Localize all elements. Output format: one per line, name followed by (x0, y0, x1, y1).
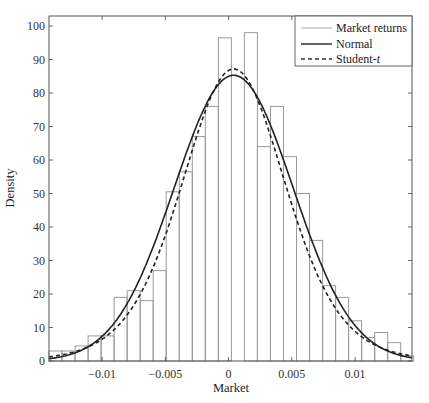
x-tick-label: 0.01 (345, 367, 366, 381)
histogram-bar (218, 38, 231, 361)
histogram-bar (179, 172, 192, 361)
histogram-chart: 0102030405060708090100 −0.01−0.00500.005… (0, 0, 429, 403)
histogram-bar (310, 240, 323, 361)
legend: Market returns Normal Student-t (295, 16, 412, 66)
normal-curve (49, 75, 412, 358)
histogram-bar (323, 286, 336, 361)
histogram-bar (375, 333, 388, 362)
y-tick-label: 100 (27, 19, 45, 33)
legend-normal-label: Normal (336, 37, 373, 51)
y-tick-label: 50 (33, 187, 45, 201)
histogram-bar (284, 157, 297, 361)
histogram-bar (166, 192, 179, 361)
y-tick-label: 60 (33, 153, 45, 167)
y-axis: 0102030405060708090100 (27, 19, 412, 368)
x-axis: −0.01−0.00500.0050.01 (88, 16, 365, 381)
x-tick-label: 0.005 (278, 367, 305, 381)
histogram-bars (49, 33, 414, 361)
histogram-bar (140, 301, 153, 361)
y-tick-label: 0 (39, 354, 45, 368)
legend-student-t-label: Student-t (336, 52, 381, 66)
y-tick-label: 20 (33, 287, 45, 301)
y-tick-label: 10 (33, 321, 45, 335)
plot-frame (49, 16, 412, 361)
x-axis-title: Market (213, 381, 250, 395)
y-tick-label: 70 (33, 120, 45, 134)
histogram-bar (153, 271, 166, 361)
y-tick-label: 40 (33, 220, 45, 234)
histogram-bar (271, 106, 284, 361)
x-tick-label: −0.005 (148, 367, 182, 381)
x-tick-label: 0 (226, 367, 232, 381)
y-tick-label: 30 (33, 254, 45, 268)
legend-market-returns-label: Market returns (336, 21, 407, 35)
histogram-bar (205, 106, 218, 361)
histogram-bar (257, 147, 270, 361)
y-tick-label: 90 (33, 53, 45, 67)
histogram-bar (192, 137, 205, 361)
x-tick-label: −0.01 (88, 367, 116, 381)
y-tick-label: 80 (33, 86, 45, 100)
histogram-bar (101, 336, 114, 361)
y-axis-title: Density (3, 168, 17, 208)
student-t-curve (49, 69, 412, 357)
